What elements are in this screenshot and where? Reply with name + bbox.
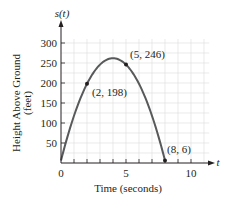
x-axis-arrow-icon bbox=[208, 161, 215, 166]
y-tick-label: 100 bbox=[41, 117, 58, 129]
data-point-label: (8, 6) bbox=[167, 143, 191, 156]
y-axis-arrow-icon bbox=[59, 20, 64, 27]
data-point-marker bbox=[163, 159, 167, 163]
x-tick-label: 10 bbox=[186, 167, 198, 179]
y-axis-name: s(t) bbox=[55, 7, 70, 20]
x-axis-name: t bbox=[216, 156, 220, 168]
axis-ticks: 051050100150200250300 bbox=[41, 37, 198, 180]
x-tick-label: 5 bbox=[123, 167, 129, 179]
x-tick-label: 0 bbox=[58, 167, 64, 179]
y-tick-label: 300 bbox=[41, 37, 58, 49]
y-tick-label: 200 bbox=[41, 77, 58, 89]
height-vs-time-chart: 051050100150200250300 (2, 198)(5, 246)(8… bbox=[0, 0, 229, 202]
x-axis-label: Time (seconds) bbox=[94, 182, 162, 195]
data-point-label: (2, 198) bbox=[92, 86, 127, 99]
data-point-marker bbox=[124, 63, 128, 67]
y-tick-label: 250 bbox=[41, 57, 58, 69]
y-tick-label: 150 bbox=[41, 97, 58, 109]
data-point-marker bbox=[85, 82, 89, 86]
data-point-label: (5, 246) bbox=[130, 48, 165, 61]
y-axis-label-line2: (feet) bbox=[21, 91, 34, 115]
y-tick-label: 50 bbox=[46, 137, 58, 149]
